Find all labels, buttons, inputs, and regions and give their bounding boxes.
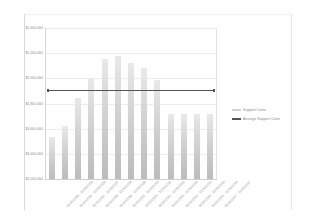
bar-support-costs[interactable] bbox=[115, 56, 121, 179]
chart-legend: Support CostsAverage Support Costs bbox=[232, 108, 310, 126]
bar-support-costs[interactable] bbox=[194, 114, 200, 179]
bar-support-costs[interactable] bbox=[102, 59, 108, 179]
plot-area bbox=[45, 28, 217, 179]
legend-item[interactable]: Support Costs bbox=[232, 108, 310, 112]
legend-item-label: Support Costs bbox=[243, 108, 266, 112]
plot-right-edge bbox=[216, 28, 217, 179]
x-axis-labels: 01/01/2005 - 12/31/200501/01/2006 - 12/3… bbox=[45, 180, 217, 220]
bar-support-costs[interactable] bbox=[168, 114, 174, 179]
bar-support-costs[interactable] bbox=[181, 114, 187, 179]
y-axis-tick-label: $4,600,000 bbox=[26, 127, 43, 131]
y-axis-tick-label: $4,200,000 bbox=[26, 177, 43, 181]
average-line-endpoint bbox=[47, 89, 49, 92]
y-axis-tick-label: $4,400,000 bbox=[26, 152, 43, 156]
y-axis-tick-label: $5,200,000 bbox=[26, 51, 43, 55]
bar-support-costs[interactable] bbox=[49, 137, 55, 179]
legend-item-label: Average Support Costs bbox=[243, 117, 280, 121]
bar-support-costs[interactable] bbox=[62, 126, 68, 179]
legend-swatch-icon bbox=[232, 118, 241, 120]
legend-swatch-icon bbox=[232, 109, 241, 111]
average-line-endpoint bbox=[213, 89, 215, 92]
y-axis-labels: $5,400,000$5,200,000$5,000,000$4,800,000… bbox=[0, 28, 43, 179]
gridline bbox=[45, 28, 217, 29]
bar-support-costs[interactable] bbox=[128, 63, 134, 179]
bar-support-costs[interactable] bbox=[154, 80, 160, 179]
y-axis-tick-label: $5,400,000 bbox=[26, 26, 43, 30]
y-axis-tick-label: $5,000,000 bbox=[26, 76, 43, 80]
bar-support-costs[interactable] bbox=[207, 114, 213, 179]
legend-item[interactable]: Average Support Costs bbox=[232, 117, 310, 121]
y-axis-tick-label: $4,800,000 bbox=[26, 102, 43, 106]
gridline bbox=[45, 53, 217, 54]
chart-container: $5,400,000$5,200,000$5,000,000$4,800,000… bbox=[0, 0, 312, 220]
bar-support-costs[interactable] bbox=[75, 98, 81, 179]
bar-support-costs[interactable] bbox=[88, 78, 94, 179]
average-support-costs-line[interactable] bbox=[47, 90, 215, 92]
y-axis-line bbox=[45, 28, 46, 179]
bar-support-costs[interactable] bbox=[141, 68, 147, 179]
